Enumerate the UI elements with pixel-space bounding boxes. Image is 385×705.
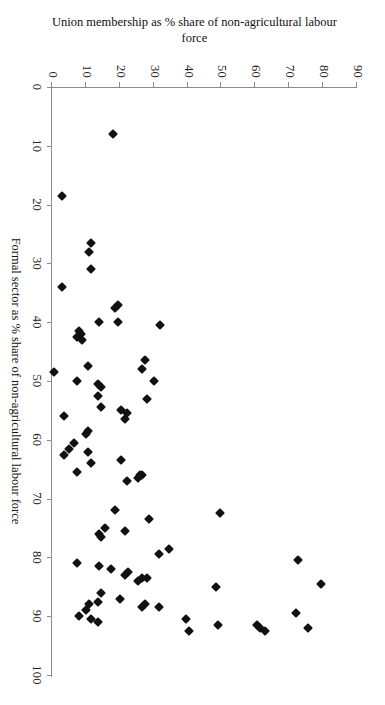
scatter-point <box>93 597 103 607</box>
x-tick-label: 50 <box>29 375 44 388</box>
y-tick-label: 30 <box>146 60 161 78</box>
scatter-point <box>164 544 174 554</box>
scatter-point <box>74 611 84 621</box>
y-tick-label: 70 <box>282 60 297 78</box>
scatter-point <box>142 394 152 404</box>
scatter-point <box>156 320 166 330</box>
x-tick-mark <box>47 675 52 676</box>
scatter-point <box>86 238 96 248</box>
scatter-point <box>184 626 194 636</box>
y-tick-label: 10 <box>78 60 93 78</box>
scatter-point <box>57 282 67 292</box>
y-tick-label: 20 <box>112 60 127 78</box>
x-tick-label: 30 <box>29 257 44 270</box>
x-tick-label: 10 <box>29 139 44 152</box>
y-tick-label: 50 <box>214 60 229 78</box>
scatter-point <box>84 247 94 257</box>
y-tick-label: 0 <box>45 60 60 78</box>
scatter-point <box>316 579 326 589</box>
x-tick-label: 0 <box>29 84 44 90</box>
x-axis-title: Formal sector as % share of non-agricult… <box>7 87 23 675</box>
scatter-point <box>261 626 271 636</box>
scatter-point <box>110 505 120 515</box>
scatter-point <box>83 361 93 371</box>
x-tick-label: 60 <box>29 433 44 446</box>
scatter-point <box>137 364 147 374</box>
scatter-point <box>72 558 82 568</box>
scatter-point <box>106 564 116 574</box>
scatter-point <box>154 550 164 560</box>
scatter-point <box>113 317 123 327</box>
figure-wrap: 0102030405060708090100 01020304050607080… <box>0 0 385 705</box>
scatter-point <box>122 476 132 486</box>
scatter-point <box>291 608 301 618</box>
scatter-point <box>57 191 67 201</box>
y-axis-title: Union membership as % share of non-agric… <box>42 15 347 46</box>
scatter-point <box>144 514 154 524</box>
x-tick-label: 80 <box>29 551 44 564</box>
scatter-point <box>303 623 313 633</box>
x-tick-label: 70 <box>29 492 44 505</box>
y-tick-label: 80 <box>316 60 331 78</box>
scatter-point <box>78 335 88 345</box>
y-tick-label: 90 <box>350 60 365 78</box>
scatter-point <box>149 376 159 386</box>
x-tick-label: 100 <box>29 665 44 684</box>
scatter-point <box>72 376 82 386</box>
scatter-point <box>95 561 105 571</box>
scatter-point <box>293 555 303 565</box>
scatter-point <box>86 458 96 468</box>
scatter-point <box>93 391 103 401</box>
scatter-point <box>72 467 82 477</box>
scatter-point <box>215 508 225 518</box>
scatter-point <box>108 129 118 139</box>
scatter-point <box>211 582 221 592</box>
scatter-point <box>96 403 106 413</box>
x-tick-label: 90 <box>29 610 44 623</box>
scatter-point <box>83 447 93 457</box>
scatter-point <box>115 594 125 604</box>
scatter-point <box>59 411 69 421</box>
scatter-point <box>154 602 164 612</box>
scatter-point <box>95 317 105 327</box>
scatter-point <box>213 620 223 630</box>
scatter-point <box>117 455 127 465</box>
y-tick-label: 60 <box>248 60 263 78</box>
x-tick-label: 40 <box>29 316 44 329</box>
data-points-layer <box>52 87 357 675</box>
y-tick-label: 40 <box>180 60 195 78</box>
scatter-point <box>181 614 191 624</box>
scatter-plot-figure: 0102030405060708090100 01020304050607080… <box>0 0 385 705</box>
x-tick-label: 20 <box>29 198 44 211</box>
scatter-point <box>86 264 96 274</box>
scatter-point <box>120 526 130 536</box>
